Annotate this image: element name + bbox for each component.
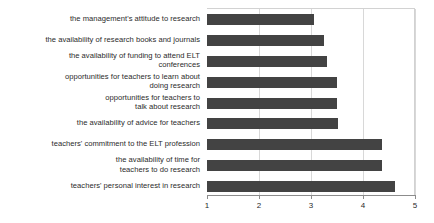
x-axis-tick-label: 2 bbox=[249, 201, 269, 210]
category-label: teachers' commitment to the ELT professi… bbox=[0, 139, 200, 148]
category-label: the availability of research books and j… bbox=[0, 35, 200, 44]
x-axis-tick-label: 3 bbox=[301, 201, 321, 210]
bar bbox=[207, 118, 338, 129]
horizontal-bar-chart: the management's attitude to researchthe… bbox=[0, 0, 434, 223]
category-label: the availability of advice for teachers bbox=[0, 118, 200, 127]
bar bbox=[207, 139, 382, 150]
category-label: teachers' personal interest in research bbox=[0, 181, 200, 190]
bar bbox=[207, 56, 327, 67]
bar bbox=[207, 77, 337, 88]
x-axis-tick-label: 5 bbox=[405, 201, 425, 210]
x-axis-tick-label: 4 bbox=[353, 201, 373, 210]
category-label: the availability of time for teachers to… bbox=[0, 155, 200, 173]
x-axis-tick-mark bbox=[259, 195, 260, 199]
x-axis-tick-mark bbox=[311, 195, 312, 199]
x-axis-tick-mark bbox=[415, 195, 416, 199]
bar bbox=[207, 98, 337, 109]
category-label: the management's attitude to research bbox=[0, 14, 200, 23]
x-axis-tick-label: 1 bbox=[197, 201, 217, 210]
category-label: opportunities for teachers to talk about… bbox=[0, 93, 200, 111]
gridline bbox=[415, 9, 416, 196]
category-label: the availability of funding to attend EL… bbox=[0, 51, 200, 69]
plot-area bbox=[207, 8, 415, 196]
bar bbox=[207, 14, 314, 25]
bar bbox=[207, 35, 324, 46]
category-label: opportunities for teachers to learn abou… bbox=[0, 72, 200, 90]
bar bbox=[207, 181, 395, 192]
bar bbox=[207, 160, 382, 171]
x-axis-tick-mark bbox=[363, 195, 364, 199]
category-label-column: the management's attitude to researchthe… bbox=[0, 0, 204, 196]
x-axis-tick-mark bbox=[207, 195, 208, 199]
